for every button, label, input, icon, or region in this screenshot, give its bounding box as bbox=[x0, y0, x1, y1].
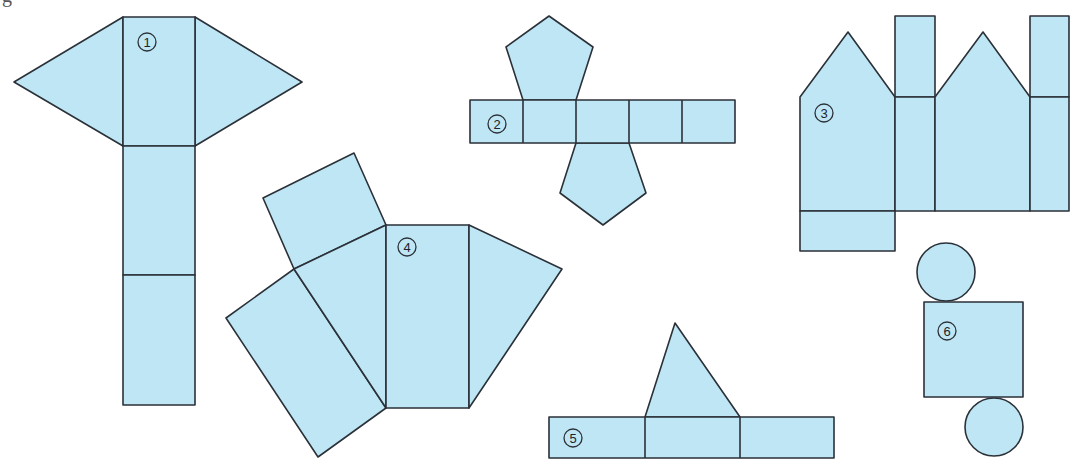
net-4: 4 bbox=[226, 153, 562, 457]
net-1-bottom-rect bbox=[123, 275, 195, 405]
net-4-center-rect bbox=[386, 225, 469, 408]
net-2: 2 bbox=[470, 16, 735, 225]
nets-diagram: g 1 2 3 bbox=[0, 0, 1073, 470]
net-3-tall-rect-bottom bbox=[895, 97, 935, 211]
net-3-right-rect-bottom bbox=[1030, 97, 1069, 211]
net-3-bottom-rect bbox=[800, 211, 895, 251]
net-5-strip bbox=[549, 417, 834, 458]
net-4-right-triangle bbox=[469, 225, 562, 408]
net-3: 3 bbox=[800, 16, 1069, 251]
svg-text:3: 3 bbox=[820, 106, 827, 121]
net-1-middle-rect bbox=[123, 146, 195, 275]
svg-text:6: 6 bbox=[943, 324, 950, 339]
net-1-top-rect bbox=[123, 17, 195, 146]
svg-text:1: 1 bbox=[143, 35, 150, 50]
net-6-rect bbox=[924, 302, 1023, 397]
net-2-bottom-pentagon bbox=[560, 143, 646, 225]
net-6-top-circle bbox=[917, 243, 975, 301]
net-2-top-pentagon bbox=[506, 16, 593, 100]
net-3-tall-rect-top bbox=[895, 16, 935, 97]
net-2-strip bbox=[470, 100, 735, 143]
svg-text:4: 4 bbox=[403, 240, 410, 255]
net-1-right-triangle bbox=[195, 17, 302, 146]
net-6-bottom-circle bbox=[965, 398, 1023, 456]
net-5: 5 bbox=[549, 323, 834, 458]
net-1-left-triangle bbox=[14, 17, 123, 146]
corner-fragment-text: g bbox=[2, 0, 12, 7]
net-3-right-rect-top bbox=[1030, 16, 1069, 97]
net-3-middle-pentagon bbox=[935, 32, 1030, 211]
svg-text:2: 2 bbox=[493, 117, 500, 132]
svg-text:5: 5 bbox=[569, 431, 576, 446]
net-6: 6 bbox=[917, 243, 1023, 456]
net-5-triangle bbox=[645, 323, 740, 417]
net-3-left-pentagon bbox=[800, 32, 895, 211]
